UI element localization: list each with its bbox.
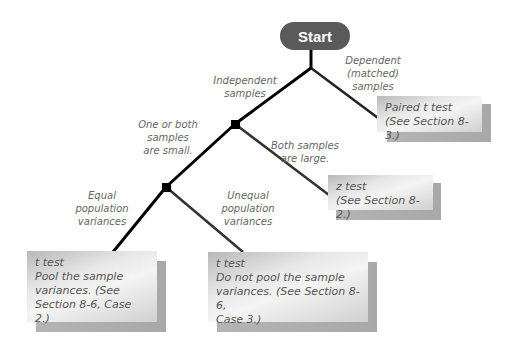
hypothesis-test-flowchart: Start Independent samples Dependent (mat… bbox=[0, 0, 513, 351]
label-equal-variances: Equal population variances bbox=[70, 189, 134, 228]
label-dependent-samples: Dependent (matched) samples bbox=[338, 54, 408, 93]
box-text: t test Pool the sample variances. (See S… bbox=[27, 251, 157, 322]
label-independent-samples: Independent samples bbox=[205, 74, 285, 100]
box-text: Paired t test (See Section 8-3.) bbox=[377, 96, 482, 132]
junction-node-sample-type bbox=[231, 120, 240, 129]
label-large-samples: Both samples are large. bbox=[265, 139, 345, 165]
junction-node-variance bbox=[162, 183, 171, 192]
label-small-samples: One or both samples are small. bbox=[132, 118, 204, 157]
label-unequal-variances: Unequal population variances bbox=[216, 189, 280, 228]
start-node: Start bbox=[280, 22, 350, 50]
box-text: t test Do not pool the sample variances.… bbox=[208, 252, 368, 322]
box-text: z test (See Section 8-2.) bbox=[328, 175, 433, 210]
